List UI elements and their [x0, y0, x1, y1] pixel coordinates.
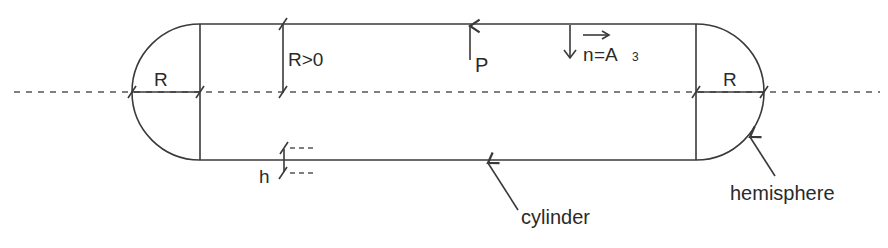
normal-vector-symbol: n	[583, 44, 594, 65]
normal-vector-label: n =A 3	[583, 31, 639, 65]
normal-vector-subscript: 3	[632, 50, 639, 64]
right-radius-label: R	[723, 69, 737, 90]
pressure-label: P	[475, 54, 488, 76]
thickness-tick-bottom	[279, 167, 287, 179]
radius-condition-label: R>0	[288, 49, 323, 70]
left-radius-label: R	[154, 69, 168, 90]
cylinder-label: cylinder	[521, 206, 590, 228]
capsule-diagram: R R R>0 P n =A 3 h cylinder hemisphere	[0, 0, 888, 248]
hemisphere-leader-line	[750, 137, 775, 176]
cylinder-leader-line	[488, 163, 518, 210]
thickness-label: h	[259, 166, 270, 187]
normal-vector-equation: =A	[594, 44, 618, 65]
hemisphere-label: hemisphere	[730, 182, 835, 204]
